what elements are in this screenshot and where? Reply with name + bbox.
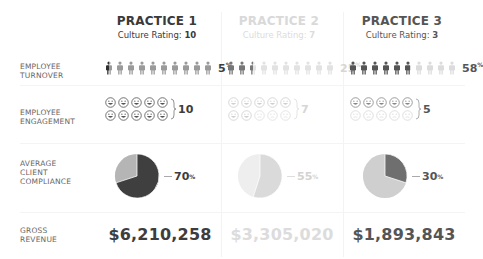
happy-face-icon: [363, 97, 374, 108]
person-icon: [115, 61, 125, 75]
practice-3-header: PRACTICE 3 Culture Rating: 3: [343, 14, 461, 40]
culture-rating: Culture Rating: 10: [98, 30, 216, 40]
turnover-pictograph-3: 58%: [348, 61, 483, 75]
row-divider: [20, 85, 465, 86]
happy-face-icon: [118, 97, 129, 108]
turnover-pictograph-1: 5%: [104, 61, 232, 75]
happy-face-icon: [280, 97, 291, 108]
pie-chart-icon: [236, 152, 284, 200]
engagement-pictograph-1: 10: [105, 97, 193, 121]
practice-title: PRACTICE 1: [98, 14, 216, 28]
happy-face-icon: [241, 97, 252, 108]
person-icon: [137, 61, 147, 75]
happy-face-icon: [228, 110, 239, 121]
happy-face-icon: [144, 97, 155, 108]
turnover-pictograph-2: 25%: [226, 61, 361, 75]
person-icon: [370, 61, 380, 75]
practice-title: PRACTICE 2: [220, 14, 338, 28]
person-icon: [281, 61, 291, 75]
neutral-face-icon: [254, 110, 265, 121]
neutral-face-icon: [267, 110, 278, 121]
happy-face-icon: [105, 97, 116, 108]
person-icon: [325, 61, 335, 75]
revenue-value-2: $3,305,020: [222, 225, 342, 244]
happy-face-icon: [131, 110, 142, 121]
person-icon: [270, 61, 280, 75]
person-icon: [414, 61, 424, 75]
row-label-compliance: AVERAGECLIENTCOMPLIANCE: [20, 159, 71, 186]
compliance-pie-3: 30%: [361, 152, 443, 200]
person-icon: [447, 61, 457, 75]
column-divider: [343, 12, 344, 257]
culture-rating: Culture Rating: 7: [220, 30, 338, 40]
person-icon: [259, 61, 269, 75]
happy-face-icon: [350, 97, 361, 108]
person-icon: [381, 61, 391, 75]
column-divider: [221, 12, 222, 257]
happy-face-icon: [157, 97, 168, 108]
person-icon: [226, 61, 236, 75]
happy-face-icon: [402, 97, 413, 108]
row-label-engagement: EMPLOYEEENGAGEMENT: [20, 108, 75, 126]
person-icon: [425, 61, 435, 75]
neutral-face-icon: [350, 110, 361, 121]
practice-1-header: PRACTICE 1 Culture Rating: 10: [98, 14, 216, 40]
engagement-value: 10: [178, 103, 193, 116]
face-icons: [350, 97, 413, 121]
neutral-face-icon: [363, 110, 374, 121]
people-icons: [348, 61, 457, 75]
happy-face-icon: [389, 97, 400, 108]
happy-face-icon: [105, 110, 116, 121]
face-icons: [228, 97, 291, 121]
happy-face-icon: [254, 97, 265, 108]
happy-face-icon: [144, 110, 155, 121]
person-icon: [314, 61, 324, 75]
person-icon: [248, 61, 258, 75]
engagement-pictograph-3: 5: [350, 97, 431, 121]
person-icon: [126, 61, 136, 75]
pie-chart-icon: [361, 152, 409, 200]
compliance-value: 30%: [409, 170, 443, 183]
happy-face-icon: [267, 97, 278, 108]
engagement-value: 7: [301, 103, 309, 116]
neutral-face-icon: [402, 110, 413, 121]
person-icon: [436, 61, 446, 75]
practice-title: PRACTICE 3: [343, 14, 461, 28]
compliance-pie-2: 55%: [236, 152, 318, 200]
revenue-value-3: $1,893,843: [344, 225, 464, 244]
person-icon: [104, 61, 114, 75]
face-icons: [105, 97, 168, 121]
culture-rating: Culture Rating: 3: [343, 30, 461, 40]
brace-icon: [415, 98, 421, 120]
happy-face-icon: [376, 97, 387, 108]
practice-2-header: PRACTICE 2 Culture Rating: 7: [220, 14, 338, 40]
row-divider: [20, 143, 465, 144]
people-icons: [104, 61, 213, 75]
row-label-turnover: EMPLOYEETURNOVER: [20, 62, 63, 80]
row-divider: [20, 212, 465, 213]
person-icon: [359, 61, 369, 75]
happy-face-icon: [118, 110, 129, 121]
brace-icon: [170, 98, 176, 120]
compliance-value: 70%: [161, 170, 195, 183]
revenue-value-1: $6,210,258: [100, 225, 220, 244]
person-icon: [148, 61, 158, 75]
happy-face-icon: [157, 110, 168, 121]
person-icon: [348, 61, 358, 75]
row-label-revenue: GROSSREVENUE: [20, 226, 57, 244]
person-icon: [403, 61, 413, 75]
person-icon: [392, 61, 402, 75]
neutral-face-icon: [389, 110, 400, 121]
person-icon: [181, 61, 191, 75]
happy-face-icon: [228, 97, 239, 108]
happy-face-icon: [241, 110, 252, 121]
brace-icon: [293, 98, 299, 120]
person-icon: [203, 61, 213, 75]
person-icon: [292, 61, 302, 75]
happy-face-icon: [131, 97, 142, 108]
person-icon: [170, 61, 180, 75]
person-icon: [237, 61, 247, 75]
person-icon: [159, 61, 169, 75]
compliance-pie-1: 70%: [113, 152, 195, 200]
